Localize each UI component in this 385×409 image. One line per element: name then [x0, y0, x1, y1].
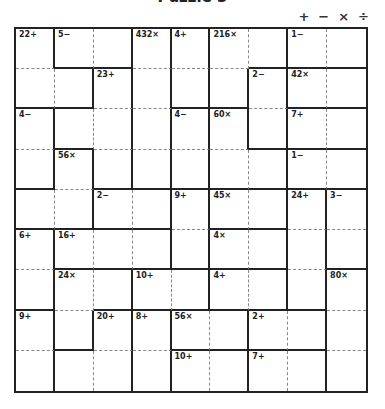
grid-cell[interactable]	[94, 351, 133, 391]
cage-label: 6+	[19, 231, 31, 240]
grid-cell[interactable]	[249, 109, 288, 149]
grid-cell[interactable]: 56×	[55, 150, 94, 190]
grid-cell[interactable]: 16+	[55, 230, 94, 270]
cage-label: 1−	[291, 30, 303, 39]
grid-cell[interactable]	[55, 311, 94, 351]
grid-cell[interactable]	[210, 150, 249, 190]
grid-cell[interactable]	[288, 230, 327, 270]
grid-cell[interactable]	[172, 270, 211, 310]
cage-label: 4−	[175, 110, 187, 119]
grid-cell[interactable]: 7+	[249, 351, 288, 391]
grid-cell[interactable]: 432×	[133, 29, 172, 69]
grid-cell[interactable]	[172, 150, 211, 190]
cage-label: 10+	[136, 271, 154, 280]
grid-cell[interactable]	[288, 270, 327, 310]
grid-cell[interactable]	[327, 351, 366, 391]
grid-cell[interactable]: 4−	[16, 109, 55, 149]
grid-cell[interactable]	[55, 69, 94, 109]
grid-cell[interactable]	[288, 311, 327, 351]
grid-cell[interactable]: 23+	[94, 69, 133, 109]
grid-cell[interactable]: 2−	[94, 190, 133, 230]
cage-label: 2−	[97, 191, 109, 200]
grid-cell[interactable]: 8+	[133, 311, 172, 351]
grid-cell[interactable]	[327, 69, 366, 109]
cage-label: 60×	[213, 110, 231, 119]
grid-cell[interactable]: 45×	[210, 190, 249, 230]
grid-cell[interactable]	[249, 190, 288, 230]
grid-cell[interactable]: 3−	[327, 190, 366, 230]
grid-cell[interactable]: 4−	[172, 109, 211, 149]
grid-cell[interactable]	[210, 311, 249, 351]
cage-label: 2+	[252, 312, 264, 321]
grid-cell[interactable]: 4+	[210, 270, 249, 310]
grid-cell[interactable]: 4+	[172, 29, 211, 69]
grid-cell[interactable]	[133, 150, 172, 190]
grid-cell[interactable]: 10+	[172, 351, 211, 391]
grid-cell[interactable]	[327, 109, 366, 149]
grid-cell[interactable]: 20+	[94, 311, 133, 351]
grid-cell[interactable]	[133, 190, 172, 230]
grid-cell[interactable]	[327, 29, 366, 69]
times-operator[interactable]: ×	[338, 9, 349, 24]
cage-label: 16+	[58, 231, 76, 240]
grid-cell[interactable]: 7+	[288, 109, 327, 149]
grid-cell[interactable]	[249, 270, 288, 310]
cage-label: 5−	[58, 30, 70, 39]
grid-cell[interactable]	[288, 351, 327, 391]
grid-cell[interactable]	[55, 109, 94, 149]
grid-cell[interactable]	[94, 29, 133, 69]
grid-cell[interactable]	[327, 311, 366, 351]
grid-cell[interactable]: 60×	[210, 109, 249, 149]
grid-cell[interactable]: 56×	[172, 311, 211, 351]
grid-cell[interactable]	[16, 270, 55, 310]
cage-label: 216×	[213, 30, 236, 39]
grid-cell[interactable]: 4×	[210, 230, 249, 270]
divide-operator[interactable]: ÷	[358, 9, 369, 24]
grid-cell[interactable]	[249, 150, 288, 190]
grid-cell[interactable]: 22+	[16, 29, 55, 69]
grid-cell[interactable]: 6+	[16, 230, 55, 270]
grid-cell[interactable]	[327, 150, 366, 190]
grid-cell[interactable]	[16, 351, 55, 391]
grid-cell[interactable]	[249, 230, 288, 270]
grid-cell[interactable]: 216×	[210, 29, 249, 69]
grid-cell[interactable]: 1−	[288, 150, 327, 190]
grid-cell[interactable]	[16, 190, 55, 230]
minus-operator[interactable]: −	[318, 9, 329, 24]
grid-cell[interactable]	[94, 230, 133, 270]
grid-cell[interactable]	[55, 190, 94, 230]
grid-cell[interactable]	[94, 109, 133, 149]
grid-cell[interactable]: 42×	[288, 69, 327, 109]
grid-cell[interactable]	[133, 351, 172, 391]
grid-cell[interactable]	[172, 230, 211, 270]
grid-cell[interactable]: 2−	[249, 69, 288, 109]
grid-cell[interactable]: 2+	[249, 311, 288, 351]
cage-label: 7+	[252, 352, 264, 361]
grid-cell[interactable]: 9+	[172, 190, 211, 230]
grid-cell[interactable]: 1−	[288, 29, 327, 69]
grid-cell[interactable]	[210, 69, 249, 109]
grid-cell[interactable]	[133, 230, 172, 270]
grid-cell[interactable]	[16, 150, 55, 190]
grid-cell[interactable]: 24×	[55, 270, 94, 310]
grid-cell[interactable]: 5−	[55, 29, 94, 69]
grid-cell[interactable]	[249, 29, 288, 69]
plus-operator[interactable]: +	[298, 9, 309, 24]
grid-cell[interactable]: 10+	[133, 270, 172, 310]
cage-label: 7+	[291, 110, 303, 119]
grid-cell[interactable]	[94, 150, 133, 190]
grid-cell[interactable]	[133, 69, 172, 109]
grid-cell[interactable]	[133, 109, 172, 149]
grid-cell[interactable]: 80×	[327, 270, 366, 310]
grid-cell[interactable]	[172, 69, 211, 109]
grid-cell[interactable]: 9+	[16, 311, 55, 351]
grid-cell[interactable]	[16, 69, 55, 109]
cage-label: 3−	[330, 191, 342, 200]
grid-cell[interactable]	[55, 351, 94, 391]
grid-cell[interactable]	[327, 230, 366, 270]
grid-cell[interactable]	[210, 351, 249, 391]
grid-cell[interactable]: 24+	[288, 190, 327, 230]
cage-label: 8+	[136, 312, 148, 321]
grid-cell[interactable]	[94, 270, 133, 310]
operator-legend: + − × ÷	[298, 9, 369, 24]
